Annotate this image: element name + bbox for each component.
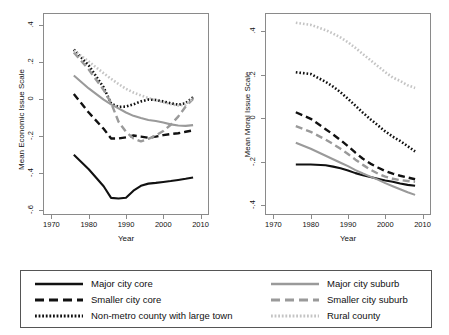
x-tick-mark: [89, 215, 90, 219]
y-tick-label: 0: [26, 88, 35, 110]
series-line: [296, 143, 415, 195]
y-tick-label: -.2: [248, 150, 257, 172]
x-tick-label: 2000: [371, 220, 399, 229]
legend-item-label: Major city core: [91, 276, 153, 291]
x-tick-mark: [423, 215, 424, 219]
y-tick-label: -.4: [26, 162, 35, 184]
y-tick-label: -.4: [248, 194, 257, 216]
series-line: [74, 50, 193, 107]
legend-item-label: Smaller city suburb: [327, 292, 408, 307]
x-tick-mark: [311, 215, 312, 219]
x-tick-label: 2010: [409, 220, 437, 229]
legend-column-1: Major city coreSmaller city coreNon-metr…: [33, 271, 263, 329]
legend-column-2: Major city suburbSmaller city suburbRura…: [269, 271, 437, 329]
series-line: [296, 23, 415, 88]
legend-item[interactable]: Smaller city suburb: [269, 292, 437, 307]
x-tick-label: 2010: [187, 220, 215, 229]
plot-lines-right: [266, 14, 430, 214]
panel-economic: Mean Economic Issue Scale .4.20-.2-.4-.6…: [0, 0, 225, 258]
legend-swatch-solid-icon: [269, 276, 321, 291]
legend-item[interactable]: Smaller city core: [33, 292, 263, 307]
y-tick-label: 0: [248, 107, 257, 129]
plot-frame-right: [265, 13, 431, 215]
series-line: [74, 155, 193, 199]
x-tick-label: 1990: [334, 220, 362, 229]
x-tick-label: 1990: [112, 220, 140, 229]
y-tick-label: .4: [26, 14, 35, 36]
legend-item[interactable]: Major city core: [33, 276, 263, 291]
x-tick-mark: [273, 215, 274, 219]
series-line: [74, 51, 193, 106]
x-tick-mark: [385, 215, 386, 219]
legend-item[interactable]: Non-metro county with large town: [33, 308, 263, 323]
y-tick-label: -.6: [26, 199, 35, 221]
plot-frame-left: [43, 13, 209, 215]
legend-swatch-dotted-icon: [33, 308, 85, 323]
series-line: [296, 72, 415, 151]
x-tick-mark: [51, 215, 52, 219]
legend-item-label: Major city suburb: [327, 276, 399, 291]
x-tick-mark: [348, 215, 349, 219]
y-tick-label: .2: [248, 63, 257, 85]
legend-swatch-dotted-icon: [269, 308, 321, 323]
y-tick-label: .4: [248, 20, 257, 42]
x-tick-label: 1970: [37, 220, 65, 229]
x-tick-mark: [201, 215, 202, 219]
x-tick-label: 1980: [75, 220, 103, 229]
x-tick-label: 1980: [297, 220, 325, 229]
y-tick-label: .2: [26, 51, 35, 73]
legend: Major city coreSmaller city coreNon-metr…: [20, 270, 432, 328]
x-axis-label-left: Year: [86, 234, 166, 243]
y-tick-label: -.2: [26, 125, 35, 147]
x-tick-mark: [126, 215, 127, 219]
legend-item[interactable]: Rural county: [269, 308, 437, 323]
x-axis-label-right: Year: [308, 234, 388, 243]
series-line: [74, 53, 193, 142]
x-tick-mark: [163, 215, 164, 219]
legend-swatch-dashed-icon: [33, 292, 85, 307]
x-tick-label: 2000: [149, 220, 177, 229]
series-line: [296, 164, 415, 185]
plot-lines-left: [44, 14, 208, 214]
legend-item[interactable]: Major city suburb: [269, 276, 437, 291]
x-tick-label: 1970: [259, 220, 287, 229]
figure-root: Mean Economic Issue Scale .4.20-.2-.4-.6…: [0, 0, 449, 335]
panel-moral: Mean Moral Issue Scale .4.20-.2-.4 19701…: [225, 0, 449, 258]
y-axis-label-left: Mean Economic Issue Scale: [17, 55, 26, 185]
legend-item-label: Smaller city core: [91, 292, 161, 307]
legend-swatch-dashed-icon: [269, 292, 321, 307]
legend-item-label: Rural county: [327, 308, 380, 323]
legend-item-label: Non-metro county with large town: [91, 308, 233, 323]
legend-swatch-solid-icon: [33, 276, 85, 291]
